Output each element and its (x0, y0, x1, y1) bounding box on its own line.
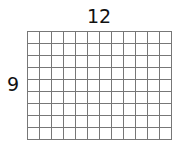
grid-cell (64, 92, 76, 104)
grid-cell (88, 92, 100, 104)
grid-cell (124, 44, 136, 56)
grid-cell (76, 80, 88, 92)
grid-cell (88, 128, 100, 140)
grid-cell (100, 68, 112, 80)
grid-cell (136, 56, 148, 68)
grid-cell (52, 116, 64, 128)
grid-cell (100, 56, 112, 68)
grid-cell (100, 104, 112, 116)
grid-cell (28, 92, 40, 104)
grid-cell (76, 32, 88, 44)
grid-cell (112, 128, 124, 140)
grid-cell (76, 56, 88, 68)
grid-cell (100, 80, 112, 92)
grid-cell (88, 68, 100, 80)
grid-cell (124, 80, 136, 92)
grid-cell (88, 44, 100, 56)
grid-cell (160, 56, 172, 68)
grid-cell (28, 32, 40, 44)
grid-cell (160, 68, 172, 80)
grid-cell (160, 116, 172, 128)
grid-cell (100, 32, 112, 44)
grid-cell (64, 68, 76, 80)
grid-cell (148, 92, 160, 104)
grid-cell (40, 32, 52, 44)
grid-cell (64, 116, 76, 128)
grid-cell (112, 68, 124, 80)
grid-cell (112, 32, 124, 44)
grid-cell (76, 116, 88, 128)
grid-cell (112, 104, 124, 116)
grid-cell (52, 104, 64, 116)
grid-cell (52, 44, 64, 56)
grid-cell (88, 56, 100, 68)
grid-cell (28, 56, 40, 68)
grid-cell (52, 80, 64, 92)
grid-cell (124, 92, 136, 104)
columns-label: 12 (27, 7, 171, 26)
grid-cell (124, 128, 136, 140)
grid-cell (124, 32, 136, 44)
grid-cell (148, 56, 160, 68)
grid-cell (148, 44, 160, 56)
grid-cell (112, 44, 124, 56)
grid-cell (40, 128, 52, 140)
grid-cell (124, 68, 136, 80)
grid-cell (76, 44, 88, 56)
grid-cell (64, 44, 76, 56)
grid-cell (124, 56, 136, 68)
grid-cell (28, 104, 40, 116)
grid-cell (52, 32, 64, 44)
grid-cell (76, 92, 88, 104)
grid-cell (136, 32, 148, 44)
grid-cell (28, 116, 40, 128)
grid-cell (136, 128, 148, 140)
grid-cell (52, 56, 64, 68)
grid-cell (112, 80, 124, 92)
grid-cell (88, 104, 100, 116)
grid-cell (160, 80, 172, 92)
grid-cell (64, 128, 76, 140)
grid-cell (148, 32, 160, 44)
grid-cell (160, 92, 172, 104)
grid-cell (52, 92, 64, 104)
grid-cell (40, 80, 52, 92)
grid-cell (136, 80, 148, 92)
grid-cell (76, 104, 88, 116)
grid-cell (136, 104, 148, 116)
grid-cell (100, 116, 112, 128)
grid-cell (124, 116, 136, 128)
grid-cell (148, 104, 160, 116)
rows-label: 9 (5, 75, 21, 94)
grid-cell (40, 92, 52, 104)
grid-cell (100, 44, 112, 56)
grid-cell (100, 92, 112, 104)
grid-cell (40, 116, 52, 128)
grid-cell (52, 128, 64, 140)
grid-cell (28, 44, 40, 56)
grid-cell (136, 116, 148, 128)
grid-cell (148, 128, 160, 140)
grid-cell (160, 32, 172, 44)
grid-cell (148, 80, 160, 92)
grid-cell (136, 44, 148, 56)
grid-cell (160, 44, 172, 56)
grid-cell (100, 128, 112, 140)
grid (27, 31, 172, 140)
grid-cell (136, 68, 148, 80)
grid-cell (136, 92, 148, 104)
grid-cell (76, 68, 88, 80)
grid-cell (40, 68, 52, 80)
grid-cell (88, 80, 100, 92)
grid-cell (124, 104, 136, 116)
grid-cell (40, 104, 52, 116)
grid-cell (112, 116, 124, 128)
grid-cell (52, 68, 64, 80)
grid-cell (64, 104, 76, 116)
grid-cell (28, 68, 40, 80)
grid-cell (160, 104, 172, 116)
grid-cell (64, 80, 76, 92)
grid-cell (64, 56, 76, 68)
grid-cell (148, 68, 160, 80)
grid-cell (88, 32, 100, 44)
